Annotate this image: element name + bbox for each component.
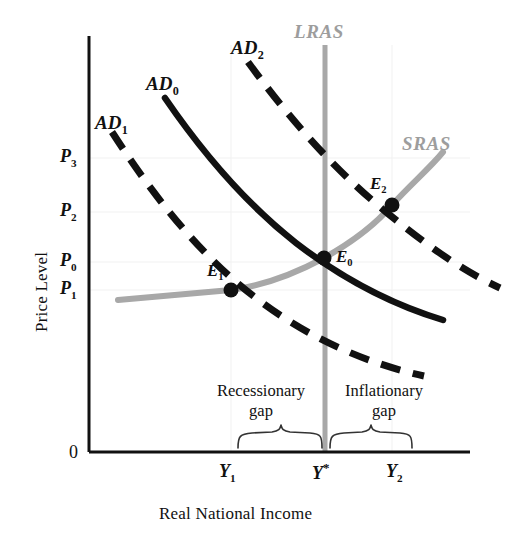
inflationary-gap-label: Inflationary gap <box>332 383 436 419</box>
sras-label: SRAS <box>402 134 451 153</box>
recessionary-gap-brace <box>238 425 322 448</box>
x-axis-title: Real National Income <box>159 505 312 522</box>
origin-label: 0 <box>69 443 78 461</box>
ad0-curve <box>165 98 443 320</box>
ad1-curve <box>112 132 424 376</box>
point-e0 <box>317 251 332 266</box>
y-tick-p3: P3 <box>60 147 77 169</box>
ad0-label: AD0 <box>146 74 179 97</box>
e0-label: E0 <box>336 248 353 269</box>
recessionary-gap-line1: Recessionary <box>205 383 317 400</box>
ad1-label: AD1 <box>95 113 128 136</box>
e1-label: E1 <box>207 262 224 283</box>
x-tick-ystar: Y* <box>312 462 329 482</box>
ad-as-chart: Price Level Real National Income 0 P3 P2… <box>0 0 506 535</box>
y-axis-title: Price Level <box>32 252 52 332</box>
y-tick-p2: P2 <box>60 201 77 223</box>
y-tick-p1: P1 <box>60 279 77 301</box>
point-e1 <box>224 283 239 298</box>
y-tick-p0: P0 <box>60 251 77 273</box>
inflationary-gap-line2: gap <box>332 403 436 420</box>
point-e2 <box>385 198 400 213</box>
inflationary-gap-line1: Inflationary <box>332 383 436 400</box>
inflationary-gap-brace <box>330 425 412 448</box>
x-tick-y2: Y2 <box>386 462 403 484</box>
e2-label: E2 <box>370 175 387 196</box>
ad2-label: AD2 <box>231 38 264 61</box>
lras-label: LRAS <box>294 22 344 41</box>
recessionary-gap-line2: gap <box>205 403 317 420</box>
x-tick-y1: Y1 <box>219 462 236 484</box>
recessionary-gap-label: Recessionary gap <box>205 383 317 419</box>
